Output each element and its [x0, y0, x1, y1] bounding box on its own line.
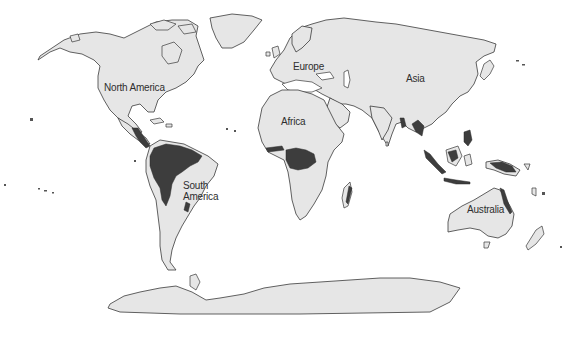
world-map: [0, 0, 568, 342]
label-south-america-line2: America: [183, 191, 218, 202]
label-asia: Asia: [406, 73, 425, 84]
indonesia-islands: [424, 130, 536, 196]
label-africa: Africa: [281, 116, 305, 127]
north-america-landmass: [38, 14, 262, 144]
label-south-america-line1: South: [183, 180, 218, 191]
label-europe: Europe: [293, 61, 324, 72]
label-south-america: South America: [183, 180, 218, 202]
label-australia: Australia: [467, 204, 504, 215]
antarctica-landmass: [108, 278, 460, 314]
australia-landmass: [448, 188, 544, 250]
south-america-landmass: [146, 140, 218, 270]
label-north-america: North America: [104, 82, 165, 93]
